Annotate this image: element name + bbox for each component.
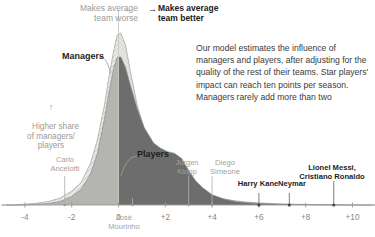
x-tick-label: +8	[291, 213, 321, 222]
x-tick-label: +10	[338, 213, 368, 222]
description-text: Our model estimates the influence of man…	[196, 42, 372, 103]
x-tick-label: -2	[57, 213, 87, 222]
makes-team-better-label: Makes average team better	[158, 4, 298, 24]
better-arrow-icon: →	[148, 4, 157, 14]
distribution-chart: ← Makes average team worse → Makes avera…	[0, 0, 375, 237]
callout-diego-simeone: Diego Simeone	[199, 159, 251, 177]
x-tick-label: +4	[197, 213, 227, 222]
x-tick-label: -4	[10, 213, 40, 222]
x-tick-label: +6	[244, 213, 274, 222]
x-tick-label: +2	[150, 213, 180, 222]
x-tick-label: 0	[104, 213, 134, 222]
y-axis-note-label: Higher share of managers/ players	[27, 122, 79, 150]
callout-carlo-ancelotti: Carlo Ancelotti	[34, 156, 96, 174]
makes-team-worse-label: Makes average team worse	[30, 4, 138, 24]
y-axis-note: ↑ Higher share of managers/ players	[8, 84, 94, 160]
series-label-players: Players	[137, 149, 169, 159]
series-label-managers: Managers	[62, 51, 104, 61]
up-arrow-icon: ↑	[8, 103, 94, 112]
callout-messi-ronaldo: Lionel Messi, Cristiano Ronaldo	[288, 164, 375, 182]
